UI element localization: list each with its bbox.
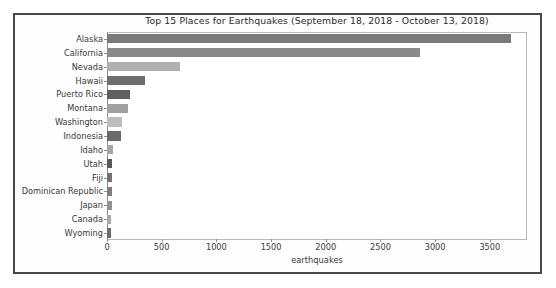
- y-tick-label-washington: Washington: [0, 117, 103, 127]
- x-tick-mark: [271, 239, 272, 243]
- y-tick-label-wyoming: Wyoming: [0, 228, 103, 238]
- y-tick-label-montana: Montana: [0, 103, 103, 113]
- bar-row: [107, 157, 527, 171]
- bar-row: [107, 212, 527, 226]
- bar-fiji: [107, 173, 112, 182]
- bar-row: [107, 185, 527, 199]
- bar-row: [107, 46, 527, 60]
- x-tick-label-1000: 1000: [206, 242, 227, 252]
- bar-row: [107, 101, 527, 115]
- x-tick-mark: [162, 239, 163, 243]
- bar-alaska: [107, 34, 511, 43]
- bar-nevada: [107, 62, 180, 71]
- x-tick-mark: [435, 239, 436, 243]
- bar-row: [107, 129, 527, 143]
- y-tick-label-hawaii: Hawaii: [0, 76, 103, 86]
- x-tick-mark: [107, 239, 108, 243]
- bar-indonesia: [107, 131, 121, 140]
- bar-montana: [107, 104, 128, 113]
- bar-canada: [107, 215, 111, 224]
- y-tick-label-california: California: [0, 48, 103, 58]
- x-tick-label-2000: 2000: [315, 242, 336, 252]
- bar-series: [107, 32, 527, 240]
- y-tick-label-indonesia: Indonesia: [0, 131, 103, 141]
- y-tick-label-nevada: Nevada: [0, 62, 103, 72]
- x-axis-label: earthquakes: [107, 255, 527, 265]
- y-tick-label-alaska: Alaska: [0, 34, 103, 44]
- x-tick-label-3500: 3500: [479, 242, 500, 252]
- x-tick-label-0: 0: [104, 242, 109, 252]
- bar-idaho: [107, 145, 113, 154]
- x-tick-label-2500: 2500: [370, 242, 391, 252]
- y-tick-label-idaho: Idaho: [0, 145, 103, 155]
- x-tick-label-3000: 3000: [425, 242, 446, 252]
- bar-hawaii: [107, 76, 145, 85]
- x-axis-tick-labels: 0500100015002000250030003500: [107, 242, 527, 256]
- bar-row: [107, 115, 527, 129]
- chart-title: Top 15 Places for Earthquakes (September…: [107, 15, 527, 26]
- bar-row: [107, 60, 527, 74]
- bar-row: [107, 171, 527, 185]
- bar-california: [107, 48, 420, 57]
- bar-washington: [107, 117, 122, 126]
- x-tick-label-500: 500: [154, 242, 170, 252]
- bar-row: [107, 87, 527, 101]
- bar-japan: [107, 201, 112, 210]
- bar-utah: [107, 159, 112, 168]
- y-axis-tick-labels: AlaskaCaliforniaNevadaHawaiiPuerto RicoM…: [0, 32, 103, 240]
- x-tick-label-1500: 1500: [261, 242, 282, 252]
- bar-puerto-rico: [107, 90, 130, 99]
- y-tick-label-japan: Japan: [0, 200, 103, 210]
- bar-row: [107, 143, 527, 157]
- bar-row: [107, 198, 527, 212]
- x-tick-mark: [380, 239, 381, 243]
- x-tick-mark: [490, 239, 491, 243]
- figure-canvas: Top 15 Places for Earthquakes (September…: [0, 0, 556, 288]
- bar-row: [107, 226, 527, 240]
- y-tick-label-puerto-rico: Puerto Rico: [0, 89, 103, 99]
- y-tick-label-utah: Utah: [0, 159, 103, 169]
- bar-row: [107, 32, 527, 46]
- y-tick-label-fiji: Fiji: [0, 173, 103, 183]
- bar-wyoming: [107, 228, 111, 237]
- x-tick-mark: [326, 239, 327, 243]
- bar-row: [107, 74, 527, 88]
- bar-dominican-republic: [107, 187, 112, 196]
- x-tick-mark: [216, 239, 217, 243]
- y-tick-label-dominican-republic: Dominican Republic: [0, 186, 103, 196]
- y-tick-label-canada: Canada: [0, 214, 103, 224]
